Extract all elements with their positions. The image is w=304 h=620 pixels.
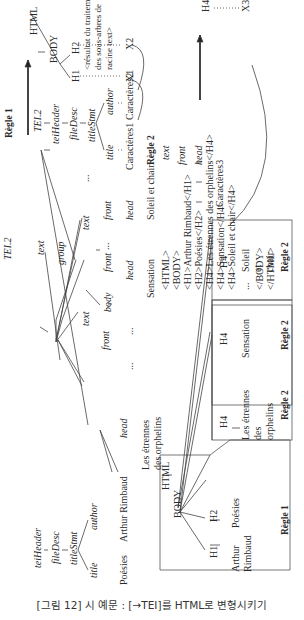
caracteres3: Caractères3 [214, 160, 225, 207]
ellipsis-1: ... [100, 243, 111, 251]
ellipsis-2: ... [80, 175, 91, 183]
main-poesies: Poésies [118, 555, 129, 585]
main-group: group [55, 241, 66, 265]
filedesc-node: fileDesc [68, 107, 79, 140]
html-line: <H2>Poésies</H2> [193, 210, 204, 290]
html-line: <H4>Sensation</H4> [215, 201, 226, 290]
soleil: Soleil et chair [145, 164, 156, 220]
head-3: head [124, 201, 135, 220]
main-author: author [88, 503, 99, 530]
head-node: head [193, 146, 204, 165]
result-h1-text-2: Rimbaud [242, 535, 253, 572]
result-html: HTML [160, 462, 171, 490]
box3-text-2: et [252, 265, 263, 272]
html-node: HTML [28, 7, 39, 35]
body-node: BODY [48, 35, 59, 63]
rotated-diagram: Règle 1 TEI.2 teiHeader fileDesc titleSt… [0, 0, 304, 590]
result-h2: H2 [208, 510, 219, 522]
html-line: <H1>Arthur Rimbaud</H1> [182, 174, 193, 290]
text-node: text [160, 146, 171, 160]
etrennes-1: Les étrennes [140, 420, 151, 470]
html-line: <H4>Les étrennes des orphelins</H4> [204, 134, 215, 290]
box1-tag: H4 [218, 416, 229, 428]
box1-text-1: Les étrennes [240, 390, 251, 440]
h1-node: H1 [70, 70, 81, 82]
html-line: ... [240, 283, 251, 291]
tei2-node: TEI.2 [32, 110, 43, 133]
text-3: text [80, 216, 91, 230]
h4-node: H4 [200, 0, 211, 12]
front-node: front [176, 146, 187, 165]
front-3: front [102, 201, 113, 220]
front-2: front [102, 253, 113, 272]
x1-node: X1 [124, 70, 135, 82]
result-h2-text: Poésies [230, 498, 241, 528]
x3-node: X3 [240, 0, 251, 12]
head-2: head [124, 261, 135, 280]
result-regle1: Règle 1 [280, 505, 291, 535]
ellipsis-3: ... [124, 328, 135, 336]
result-h1: H1 [208, 546, 219, 558]
box3-tag: H4 [218, 256, 229, 268]
box2-tag: H4 [218, 333, 229, 345]
box3-rule: Règle 2 [280, 242, 291, 272]
result-note-3: racine text> [104, 27, 114, 70]
ellipsis-4: ... [124, 363, 135, 371]
main-title: title [88, 562, 99, 578]
main-filedesc: fileDesc [50, 531, 61, 564]
titlestmt-node: titleStmt [86, 109, 97, 142]
result-note-2: des sous-arbres de [93, 4, 103, 70]
html-line: <H4>Soleil et chair</H4> [226, 185, 237, 290]
main-text: text [35, 241, 46, 255]
box1-rule: Règle 2 [280, 390, 291, 420]
x2-node: X2 [124, 38, 135, 50]
box1-text-2: des [252, 427, 263, 440]
html-line: <HTML> [160, 250, 171, 290]
box3-text-1: Soleil [240, 249, 251, 272]
text-2: text [80, 312, 91, 326]
sensation: Sensation [145, 259, 156, 298]
main-teiheader: teiHeader [32, 528, 43, 568]
regle1-title: Règle 1 [4, 108, 15, 138]
result-h1-text-1: Arthur [230, 545, 241, 572]
author-node: author [104, 88, 115, 115]
result-body: BODY [172, 490, 183, 518]
box3-text-3: chair [264, 252, 275, 272]
main-tei2: TEI.2 [2, 238, 13, 261]
box2-text-1: Sensation [240, 319, 251, 358]
figure-caption: [그림 12] 시 예문 : [→TEI]를 HTML로 변형시키기 [0, 597, 304, 612]
main-titlestmt: titleStmt [68, 532, 79, 565]
main-head: head [118, 419, 129, 438]
caracteres1: Caractères1 [124, 123, 135, 170]
body-node-main: body [102, 293, 113, 312]
result-note-1: <résultat du traitement [82, 0, 92, 70]
title-node: title [104, 144, 115, 160]
main-front: front [100, 331, 111, 350]
html-line: <BODY> [171, 250, 182, 290]
h2-node: H2 [70, 42, 81, 54]
teiheader-node: teiHeader [50, 104, 61, 144]
box1-text-3: orphelins [264, 403, 275, 440]
box2-rule: Règle 2 [280, 320, 291, 350]
regle2-title: Règle 2 [146, 135, 157, 165]
main-author-name: Arthur Rimbaud [118, 476, 129, 542]
